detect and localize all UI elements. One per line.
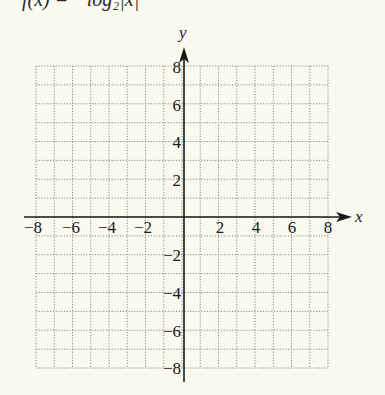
y-tick-label: 6 — [173, 96, 182, 115]
y-tick-label: 4 — [173, 133, 182, 152]
x-tick-label: 6 — [288, 218, 297, 237]
y-axis-label: y — [177, 23, 187, 42]
x-tick-label: −6 — [62, 218, 80, 237]
x-tick-labels: −8 −6 −4 −2 2 4 6 8 — [24, 218, 332, 237]
y-tick-label: 8 — [173, 58, 182, 77]
x-tick-label: −8 — [24, 218, 42, 237]
x-tick-label: 2 — [216, 218, 225, 237]
x-axis-label: x — [354, 207, 363, 226]
x-tick-label: −2 — [134, 218, 152, 237]
coordinate-plane: x y −8 −6 −4 −2 2 4 6 8 8 6 4 2 −2 −4 −6… — [0, 0, 385, 395]
y-tick-label: −6 — [163, 322, 181, 341]
y-tick-label: 2 — [173, 171, 182, 190]
y-tick-label: −8 — [163, 359, 181, 378]
x-tick-label: 8 — [324, 218, 333, 237]
y-tick-label: −2 — [163, 246, 181, 265]
x-tick-label: −4 — [98, 218, 117, 237]
y-tick-label: −4 — [163, 284, 182, 303]
y-tick-labels: 8 6 4 2 −2 −4 −6 −8 — [163, 58, 182, 378]
x-tick-label: 4 — [252, 218, 261, 237]
